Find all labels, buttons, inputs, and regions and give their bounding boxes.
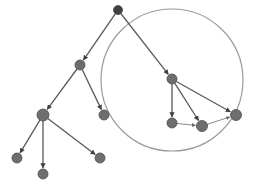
graph-node-j (95, 153, 105, 163)
edge-layer (20, 14, 230, 169)
edge-root-to-b (121, 14, 169, 75)
edge-a-to-c (47, 69, 77, 109)
edge-c-to-j (48, 119, 95, 155)
node-layer (12, 6, 242, 180)
edge-b-to-g (176, 82, 230, 112)
graph-node-root (114, 6, 123, 15)
graph-node-i (38, 169, 48, 179)
edge-a-to-d (82, 70, 101, 110)
edge-e-to-f (177, 124, 196, 126)
graph-node-e (167, 118, 177, 128)
tree-diagram (0, 0, 257, 190)
graph-node-g (231, 110, 242, 121)
edge-root-to-a (83, 14, 115, 60)
graph-node-a (75, 60, 85, 70)
edge-f-to-g (207, 117, 230, 124)
graph-node-d (99, 110, 109, 120)
graph-node-b (167, 74, 177, 84)
graph-node-f (197, 121, 208, 132)
graph-node-c (37, 109, 49, 121)
graph-node-h (12, 153, 22, 163)
edge-c-to-h (20, 120, 40, 153)
edge-b-to-f (175, 83, 199, 120)
